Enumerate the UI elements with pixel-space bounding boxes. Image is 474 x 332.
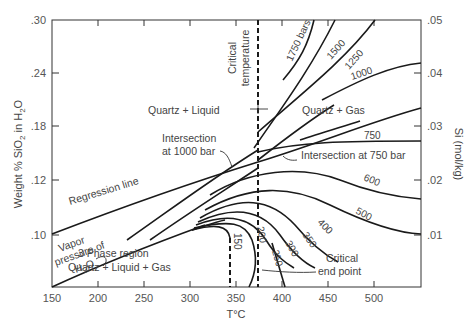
x-tick-450: 450 (319, 292, 337, 304)
isobar-200-label: 200 (255, 225, 269, 244)
intersection-1000-label-2: at 1000 bar (162, 145, 216, 157)
intersection-750-pointer (283, 156, 297, 160)
y-left-tick-10: .10 (31, 229, 46, 241)
isobar-200 (194, 224, 255, 287)
intersection-1000-pointer (220, 151, 232, 167)
isobar-1500-label: 1500 (324, 37, 347, 61)
x-tick-200: 200 (89, 292, 107, 304)
isobar-750-label: 750 (364, 130, 381, 141)
x-tick-300: 300 (181, 292, 199, 304)
x-tick-350: 350 (227, 292, 245, 304)
x-tick-500: 500 (365, 292, 383, 304)
intersection-1000-label-1: Intersection (162, 132, 216, 144)
right-y-ticks (414, 73, 421, 235)
three-phase-label-1: 3 Phase region (78, 247, 149, 259)
y-right-tick-05: .05 (427, 14, 442, 26)
x-tick-400: 400 (273, 292, 291, 304)
three-phase-label-2: Quartz + Liquid + Gas (68, 261, 171, 273)
regression-line-label: Regression line (67, 174, 140, 207)
quartz-gas-label: Quartz + Gas (302, 104, 365, 116)
x-axis-labels: 150 200 250 300 350 400 450 500 (43, 292, 383, 304)
quartz-liquid-label: Quartz + Liquid (148, 104, 220, 116)
critical-end-point-label-1: Critical (326, 252, 358, 264)
y-right-axis-title: Si (mol/kg) (453, 128, 465, 181)
isobar-250-label: 250 (270, 249, 285, 268)
y-right-tick-01: .01 (427, 229, 442, 241)
isobar-400 (200, 203, 338, 262)
isobar-150-label: 150 (232, 233, 243, 250)
x-tick-150: 150 (43, 292, 61, 304)
critical-end-point-label-2: end point (318, 265, 361, 277)
x-tick-250: 250 (135, 292, 153, 304)
y-left-tick-24: .24 (31, 67, 46, 79)
critical-temperature-label-1: Critical (226, 42, 238, 74)
isobar-600-label: 600 (362, 172, 382, 189)
left-y-ticks (52, 73, 59, 235)
critical-end-point-pointer (262, 270, 316, 272)
y-right-tick-04: .04 (427, 67, 442, 79)
critical-temperature-label-2: temperature (239, 30, 251, 87)
y-right-tick-02: .02 (427, 174, 442, 186)
y-left-tick-18: .18 (31, 120, 46, 132)
y-left-tick-30: .30 (31, 14, 46, 26)
y-right-tick-03: .03 (427, 120, 442, 132)
x-axis-title: T°C (226, 308, 245, 320)
y-left-axis-title: Weight % SiO2 in H2O (12, 99, 27, 208)
isobar-500-label: 500 (354, 205, 374, 223)
y-left-tick-12: .12 (31, 174, 46, 186)
isobar-400-label: 400 (316, 217, 336, 237)
phase-diagram-chart: 150 200 250 300 350 400 450 500 T°C .30 … (0, 0, 474, 332)
isobar-350 (198, 212, 315, 268)
intersection-750-label: Intersection at 750 bar (301, 149, 406, 161)
